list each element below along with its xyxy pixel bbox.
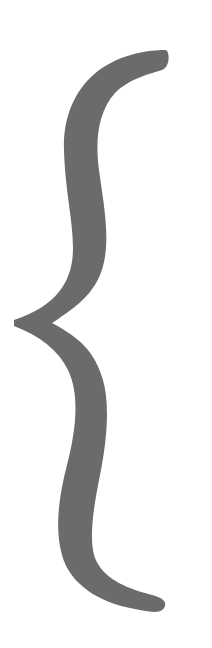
curly-brace-icon bbox=[0, 0, 212, 648]
curly-brace-shape bbox=[14, 50, 169, 612]
